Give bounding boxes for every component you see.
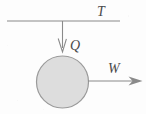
label-force-q: Q [70, 38, 80, 53]
body-circle [37, 56, 89, 108]
label-force-w: W [108, 61, 121, 76]
physics-force-diagram: T Q W [0, 0, 146, 114]
diagram-canvas: T Q W [0, 0, 146, 114]
label-tension-t: T [97, 4, 106, 19]
